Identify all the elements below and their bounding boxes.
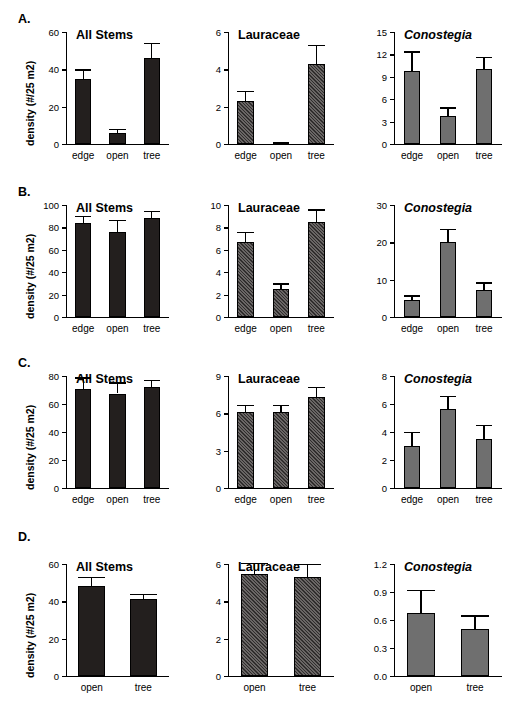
y-axis-tick-label: 20 xyxy=(29,101,59,112)
error-bar xyxy=(461,615,489,629)
y-axis-tick-label: 2 xyxy=(191,633,221,644)
y-axis-tick-label: 40 xyxy=(29,596,59,607)
y-axis-tick xyxy=(224,227,228,228)
bar xyxy=(273,289,290,317)
y-axis-tick xyxy=(62,564,66,565)
y-axis-tick-label: 3 xyxy=(191,445,221,456)
chart-title: All Stems xyxy=(76,201,133,215)
y-axis-tick xyxy=(390,77,394,78)
y-axis-tick-label: 12 xyxy=(357,49,387,60)
y-axis-tick xyxy=(390,620,394,621)
x-axis-category-label: open xyxy=(100,494,134,505)
x-axis-category-label: open xyxy=(100,150,134,161)
y-axis-tick xyxy=(224,144,228,145)
plot-area: 0369edgeopentree xyxy=(228,376,334,488)
chart-title: Lauraceae xyxy=(238,560,300,574)
error-bar xyxy=(130,594,157,600)
y-axis-tick xyxy=(62,205,66,206)
error-bar-cap xyxy=(75,216,91,217)
y-axis-tick-label: 60 xyxy=(29,559,59,570)
plot-area: 0246edgeopentree xyxy=(228,32,334,144)
chart-panel: Conostegia03691215edgeopentree xyxy=(352,10,515,180)
y-axis-tick-label: 9 xyxy=(191,371,221,382)
y-axis-tick xyxy=(224,676,228,677)
y-axis-tick-label: 80 xyxy=(29,371,59,382)
error-bar xyxy=(78,577,105,586)
y-axis-tick xyxy=(224,639,228,640)
x-axis-line xyxy=(66,676,169,677)
error-bar xyxy=(144,211,160,219)
x-axis-line xyxy=(394,676,502,677)
bar xyxy=(440,409,457,488)
plot-area: 020406080edgeopentree xyxy=(66,376,169,488)
error-bar-line xyxy=(245,232,246,242)
chart-title: Lauraceae xyxy=(238,372,300,386)
plot-area: 0102030edgeopentree xyxy=(394,205,502,317)
y-axis-tick-label: 4 xyxy=(191,267,221,278)
y-axis-tick xyxy=(224,32,228,33)
error-bar-cap xyxy=(404,51,421,52)
x-axis-line xyxy=(394,488,502,489)
y-axis-tick xyxy=(390,122,394,123)
y-axis-tick-label: 20 xyxy=(29,455,59,466)
error-bar-line xyxy=(483,57,484,69)
y-axis-tick-label: 20 xyxy=(29,289,59,300)
chart-panel: Lauraceae0369edgeopentree xyxy=(186,354,352,524)
y-axis-tick xyxy=(390,404,394,405)
bar xyxy=(440,116,457,144)
y-axis-line xyxy=(66,564,67,676)
x-axis-category-label: tree xyxy=(135,494,169,505)
error-bar xyxy=(144,43,160,58)
chart-panel: Lauraceae0246810edgeopentree xyxy=(186,183,352,351)
y-axis-tick-label: 0 xyxy=(191,483,221,494)
y-axis-tick xyxy=(390,32,394,33)
y-axis-tick-label: 6 xyxy=(191,408,221,419)
error-bar-cap xyxy=(273,142,290,143)
plot-area: 020406080100edgeopentree xyxy=(66,205,169,317)
error-bar xyxy=(237,91,254,101)
error-bar-line xyxy=(316,387,317,397)
y-axis-tick-label: 60 xyxy=(29,399,59,410)
y-axis-tick-label: 9 xyxy=(357,71,387,82)
error-bar-cap xyxy=(78,577,105,578)
error-bar-line xyxy=(117,220,118,232)
x-axis-category-label: tree xyxy=(135,323,169,334)
y-axis-tick-label: 100 xyxy=(29,200,59,211)
y-axis-tick-label: 2 xyxy=(357,455,387,466)
y-axis-tick-label: 15 xyxy=(357,27,387,38)
error-bar-cap xyxy=(109,220,125,221)
error-bar-cap xyxy=(144,211,160,212)
error-bar xyxy=(273,283,290,289)
error-bar-cap xyxy=(440,396,457,397)
x-axis-line xyxy=(66,144,169,145)
error-bar xyxy=(273,405,290,412)
y-axis-tick-label: 3 xyxy=(357,116,387,127)
x-axis-line xyxy=(228,488,334,489)
x-axis-category-label: tree xyxy=(281,682,334,693)
x-axis-category-label: tree xyxy=(466,494,502,505)
y-axis-tick xyxy=(62,272,66,273)
y-axis-tick xyxy=(390,144,394,145)
error-bar-cap xyxy=(237,405,254,406)
error-bar-cap xyxy=(440,107,457,108)
error-bar xyxy=(440,107,457,115)
chart-panel: Conostegia0.00.30.60.91.2opentree xyxy=(352,528,515,703)
chart-title: Conostegia xyxy=(404,201,472,215)
error-bar xyxy=(237,232,254,242)
bar xyxy=(308,397,325,488)
error-bar xyxy=(476,57,493,69)
plot-area: 0204060edgeopentree xyxy=(66,32,169,144)
y-axis-tick xyxy=(224,451,228,452)
error-bar-line xyxy=(474,615,475,629)
bar xyxy=(144,218,160,317)
error-bar xyxy=(404,432,421,446)
x-axis-category-label: tree xyxy=(466,323,502,334)
error-bar-cap xyxy=(404,432,421,433)
bar xyxy=(308,64,325,144)
y-axis-tick xyxy=(390,99,394,100)
y-axis-line xyxy=(394,205,395,317)
y-axis-line xyxy=(228,376,229,488)
bar xyxy=(109,394,125,489)
error-bar-line xyxy=(245,91,246,101)
chart-panel: density (#/25 m2)All Stems0204060opentre… xyxy=(14,528,182,703)
